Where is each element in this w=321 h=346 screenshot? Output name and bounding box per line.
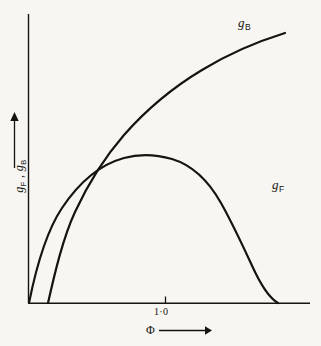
curve-gf <box>29 155 278 303</box>
figure-container: gB gF 1·0 Φ gF , gB <box>0 0 321 346</box>
curve-label-gb-base: g <box>238 15 245 30</box>
y-axis-title-base2: g <box>12 165 26 171</box>
curve-label-gf-subscript: F <box>279 184 284 194</box>
curve-label-gf-base: g <box>272 177 279 192</box>
curve-label-gf: gF <box>272 178 284 191</box>
y-axis-title-base1: g <box>12 186 26 192</box>
plot-area <box>0 0 321 346</box>
y-axis-title-sub2: B <box>19 159 28 165</box>
right-arrow-icon <box>159 325 213 336</box>
y-axis-title-separator: , <box>12 171 26 181</box>
y-axis-title: gF , gB <box>13 145 25 207</box>
x-axis-symbol: Φ <box>146 324 155 336</box>
x-axis-title: Φ <box>146 324 213 336</box>
curve-label-gb-subscript: B <box>245 22 251 32</box>
curve-label-gb: gB <box>238 16 251 29</box>
x-axis-tick-label-1: 1·0 <box>154 307 168 317</box>
y-axis-title-sub1: F <box>19 181 28 186</box>
